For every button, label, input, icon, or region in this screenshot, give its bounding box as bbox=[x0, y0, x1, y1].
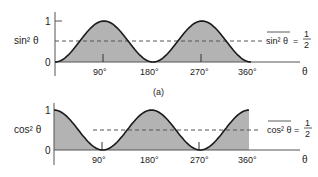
caption: (a) bbox=[153, 87, 164, 97]
x-tick-label-180: 180° bbox=[140, 67, 159, 77]
mean-lhs: sin² θ bbox=[266, 36, 288, 46]
x-label: θ bbox=[302, 154, 308, 165]
mean-eq: = bbox=[294, 125, 299, 135]
x-label: θ bbox=[302, 66, 308, 77]
y-tick-label-0: 0 bbox=[45, 145, 51, 156]
mean-lhs: cos² θ bbox=[267, 125, 292, 135]
mean-den: 2 bbox=[305, 129, 310, 139]
mean-den: 2 bbox=[304, 40, 309, 50]
x-tick-label-90: 90° bbox=[92, 155, 106, 165]
mean-annotation: sin² θ = 1 2 bbox=[266, 29, 311, 50]
x-tick-label-270: 270° bbox=[190, 155, 209, 165]
y-label: sin² θ bbox=[14, 35, 39, 46]
x-tick-label-180: 180° bbox=[140, 155, 159, 165]
y-tick-label-1: 1 bbox=[45, 16, 51, 27]
mean-num: 1 bbox=[305, 118, 310, 128]
x-tick-label-90: 90° bbox=[93, 67, 107, 77]
mean-annotation: cos² θ = 1 2 bbox=[267, 118, 312, 139]
mean-num: 1 bbox=[304, 29, 309, 39]
y-label: cos² θ bbox=[14, 124, 42, 135]
mean-eq: = bbox=[293, 36, 298, 46]
x-tick-label-270: 270° bbox=[190, 67, 209, 77]
x-tick-label-360: 360° bbox=[238, 155, 257, 165]
y-tick-label-1: 1 bbox=[45, 105, 51, 116]
y-tick-label-0: 0 bbox=[45, 57, 51, 68]
sin-squared-chart: sin² θ 1 0 90° 180° 270° 360° θ sin² θ =… bbox=[14, 12, 311, 77]
x-tick-label-360: 360° bbox=[238, 67, 257, 77]
figure: sin² θ 1 0 90° 180° 270° 360° θ sin² θ =… bbox=[0, 0, 318, 177]
cos-squared-chart: cos² θ 1 0 90° 180° 270° 360° θ cos² θ =… bbox=[14, 103, 312, 165]
